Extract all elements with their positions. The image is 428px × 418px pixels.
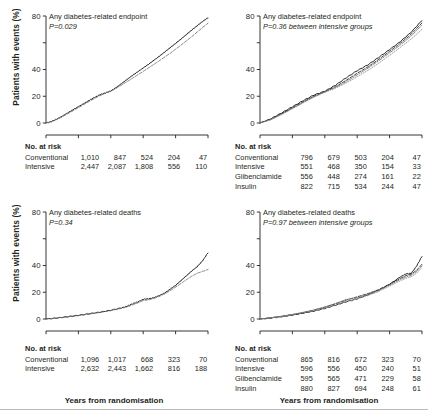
table-row: Glibenclamide55644827416122 [235, 172, 421, 182]
risk-value: 323 [367, 355, 394, 365]
risk-table-bottom-left: No. at risk Conventional1,0961,017668323… [25, 344, 207, 374]
table-row: Insulin82271553424447 [235, 182, 421, 192]
x-tick-label: 12 [171, 336, 180, 339]
x-axis-title-bottom-left: Years from randomisation [34, 396, 194, 405]
risk-value: 468 [313, 162, 340, 172]
risk-group-label: Conventional [25, 153, 72, 163]
risk-value: 816 [313, 355, 340, 365]
risk-value: 448 [313, 172, 340, 182]
risk-value: 471 [340, 374, 367, 384]
risk-group-label: Insulin [235, 384, 286, 394]
risk-value: 58 [394, 374, 421, 384]
risk-group-label: Intensive [235, 364, 286, 374]
risk-value: 822 [286, 182, 313, 192]
y-tick-label: 0 [250, 315, 255, 324]
risk-value: 110 [180, 162, 207, 172]
x-tick-label: 6 [323, 336, 327, 339]
risk-value: 556 [153, 162, 180, 172]
x-tick-label: 6 [109, 336, 113, 339]
risk-value: 1,010 [72, 153, 99, 163]
y-tick-label: 80 [32, 208, 41, 217]
y-tick-label: 20 [32, 92, 41, 101]
risk-value: 2,443 [99, 364, 126, 374]
risk-value: 244 [367, 182, 394, 192]
risk-value: 880 [286, 384, 313, 394]
risk-value: 556 [313, 364, 340, 374]
table-row: Intensive59655645024051 [235, 364, 421, 374]
risk-value: 2,632 [72, 364, 99, 374]
risk-group-label: Glibenclamide [235, 172, 286, 182]
risk-value: 70 [180, 355, 207, 365]
risk-value: 2,447 [72, 162, 99, 172]
y-tick-label: 80 [246, 208, 255, 217]
risk-value: 161 [367, 172, 394, 182]
series-line-intensive [46, 270, 208, 319]
risk-value: 1,017 [99, 355, 126, 365]
risk-value: 33 [394, 162, 421, 172]
risk-value: 450 [340, 364, 367, 374]
y-tick-label: 40 [32, 261, 41, 270]
risk-group-label: Intensive [235, 162, 286, 172]
risk-table: Conventional1,01084752420447Intensive2,4… [25, 153, 207, 173]
risk-group-label: Conventional [235, 153, 286, 163]
risk-value: 796 [286, 153, 313, 163]
risk-value: 248 [367, 384, 394, 394]
series-line-intensive [260, 23, 422, 123]
series-line-conventional [46, 253, 208, 319]
risk-group-label: Insulin [235, 182, 286, 192]
table-row: Glibenclamide59556547122958 [235, 374, 421, 384]
y-tick-label: 20 [32, 288, 41, 297]
series-line-insulin [260, 268, 422, 319]
footer-rule [0, 409, 428, 410]
figure-container: Patients with events (%) Any diabetes-re… [0, 0, 428, 418]
risk-value: 556 [286, 172, 313, 182]
risk-value: 204 [367, 153, 394, 163]
risk-value: 534 [340, 182, 367, 192]
risk-value: 204 [153, 153, 180, 163]
risk-value: 70 [394, 355, 421, 365]
risk-table: Conventional86581667232370Intensive59655… [235, 355, 421, 395]
risk-heading: No. at risk [25, 344, 207, 354]
x-tick-label: 15 [204, 336, 213, 339]
x-tick-label: 3 [290, 336, 294, 339]
risk-table-top-right: No. at risk Conventional79667950320447In… [235, 142, 421, 192]
risk-value: 51 [394, 364, 421, 374]
risk-value: 551 [286, 162, 313, 172]
risk-value: 22 [394, 172, 421, 182]
risk-heading: No. at risk [235, 142, 421, 152]
risk-value: 1,096 [72, 355, 99, 365]
risk-table: Conventional79667950320447Intensive55146… [235, 153, 421, 193]
table-row: Conventional1,01084752420447 [25, 153, 207, 163]
risk-table-bottom-right: No. at risk Conventional86581667232370In… [235, 344, 421, 394]
series-line-conventional [260, 257, 422, 319]
risk-group-label: Glibenclamide [235, 374, 286, 384]
risk-value: 61 [394, 384, 421, 394]
risk-group-label: Conventional [25, 355, 72, 365]
plot-area-top-left: 0204080 [0, 2, 214, 142]
risk-value: 827 [313, 384, 340, 394]
x-tick-label: 0 [44, 336, 49, 339]
y-tick-label: 20 [246, 92, 255, 101]
risk-value: 865 [286, 355, 313, 365]
table-row: Intensive2,6322,4431,662816188 [25, 364, 207, 374]
risk-value: 47 [394, 153, 421, 163]
y-tick-label: 0 [250, 119, 255, 128]
y-tick-label: 20 [246, 288, 255, 297]
risk-value: 240 [367, 364, 394, 374]
risk-group-label: Intensive [25, 364, 72, 374]
risk-value: 694 [340, 384, 367, 394]
y-tick-label: 0 [36, 119, 41, 128]
risk-value: 715 [313, 182, 340, 192]
risk-group-label: Conventional [235, 355, 286, 365]
series-line-conventional [46, 18, 208, 123]
risk-value: 595 [286, 374, 313, 384]
risk-value: 2,087 [99, 162, 126, 172]
x-tick-label: 0 [258, 336, 263, 339]
table-row: Intensive2,4472,0871,808556110 [25, 162, 207, 172]
plot-area-top-right: 0204080 [214, 2, 428, 142]
risk-value: 47 [180, 153, 207, 163]
risk-value: 47 [394, 182, 421, 192]
x-axis-title-bottom-right: Years from randomisation [244, 396, 414, 405]
risk-table: Conventional1,0961,01766832370Intensive2… [25, 355, 207, 375]
risk-heading: No. at risk [235, 344, 421, 354]
